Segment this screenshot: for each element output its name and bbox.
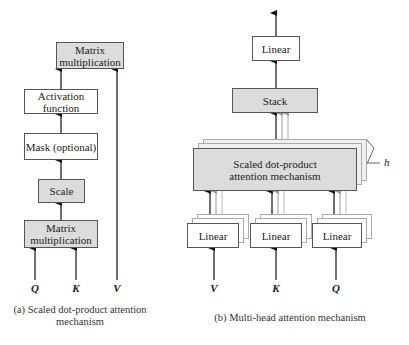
scale-box: Scale <box>38 179 85 203</box>
stack-box: Stack <box>232 88 318 113</box>
activation-function-box: Activation function <box>24 89 98 114</box>
mask-box: Mask (optional) <box>24 133 98 160</box>
heads-count-label: h <box>384 156 390 168</box>
matmul-bottom-box: Matrix multiplication <box>24 220 98 248</box>
matmul-top-box: Matrix multiplication <box>56 42 124 69</box>
input-k-label: K <box>72 282 79 294</box>
input-v-label: V <box>113 282 120 294</box>
input-v-label-b: V <box>210 282 217 294</box>
caption-a: (a) Scaled dot-product attention mechani… <box>10 304 150 328</box>
linear-k-box: Linear <box>250 223 302 248</box>
linear-v-box: Linear <box>187 223 239 248</box>
linear-output-box: Linear <box>252 36 300 61</box>
linear-q-box: Linear <box>312 223 362 248</box>
input-k-label-b: K <box>272 282 279 294</box>
input-q-label-b: Q <box>332 282 340 294</box>
caption-b: (b) Multi-head attention mechanism <box>200 312 380 324</box>
attention-box: Scaled dot-product attention mechanism <box>193 148 357 191</box>
input-q-label: Q <box>31 282 39 294</box>
